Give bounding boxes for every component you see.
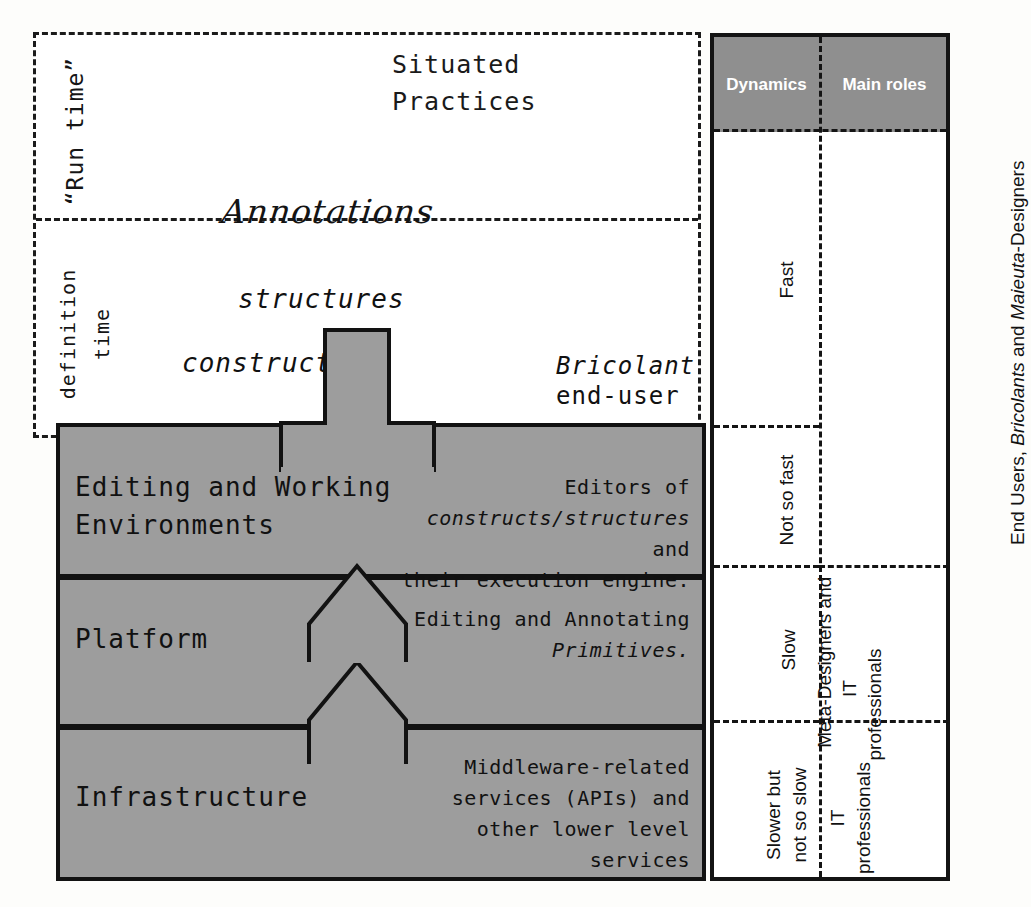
layer-title-infrastructure: Infrastructure — [75, 778, 415, 816]
layer-title-platform: Platform — [75, 620, 375, 658]
layer-desc-line1: Editing and Annotating — [414, 607, 690, 631]
bricolant-name-label: Bricolant — [556, 352, 695, 380]
roles-meta-designers: Meta- — [814, 699, 835, 748]
layer-desc-infrastructure: Middleware-related services (APIs) and o… — [370, 752, 690, 876]
situated-practices-label: Situated Practices — [392, 46, 642, 120]
annotations-label: Annotations — [220, 192, 436, 231]
roles-meta-designers-2: Designers and — [814, 577, 835, 700]
table-roles-divider-1 — [819, 565, 949, 568]
layer-desc-tail: and — [652, 537, 690, 561]
column-header-dynamics: Dynamics — [714, 37, 819, 132]
layer-desc-line3: their execution engine. — [402, 568, 690, 592]
summary-table: Dynamics Main roles Fast Not so fast Slo… — [710, 33, 950, 881]
definition-time-label: definition time — [51, 239, 119, 429]
layer-desc-platform: Editing and Annotating Primitives. — [390, 604, 690, 666]
layer-desc-line3: other lower level services — [477, 817, 690, 872]
structures-card-label: structures — [238, 284, 405, 314]
layer-desc-editing-working: Editors of constructs/structures and the… — [390, 472, 690, 596]
roles-plain-2: and — [1007, 320, 1028, 362]
layer-desc-tail: services (APIs) and — [452, 786, 690, 810]
roles-italic-bricolants: Bricolants — [1007, 362, 1028, 445]
layer-desc-line1: Editors of — [565, 475, 690, 499]
table-cell-roles-4: IT professionals — [825, 743, 877, 893]
table-header-row: Dynamics Main roles — [714, 37, 946, 132]
roles-plain-3: -Designers — [1007, 161, 1028, 253]
table-row-divider-1 — [714, 425, 819, 428]
roles-plain-1: End Users, — [1007, 451, 1028, 545]
bricolant-role-label: end-user — [556, 382, 680, 410]
run-time-label: “Run time” — [62, 51, 88, 211]
roles-italic-maieuta: Maieuta — [1007, 252, 1028, 320]
layer-desc-line1: Middleware-related — [464, 755, 690, 779]
column-header-main-roles: Main roles — [822, 37, 947, 132]
constructs-card-label: constructs — [182, 348, 349, 378]
table-row-divider-2 — [714, 565, 819, 568]
layer-desc-italic: constructs/structures — [427, 506, 690, 530]
table-cell-roles-group-1: End Users, Bricolants and Maieuta-Design… — [1005, 165, 1031, 545]
table-cell-dynamics-1: Fast — [774, 140, 800, 420]
layer-desc-italic: Primitives. — [552, 638, 690, 662]
layer-title-editing-working: Editing and Working Environments — [75, 468, 405, 544]
